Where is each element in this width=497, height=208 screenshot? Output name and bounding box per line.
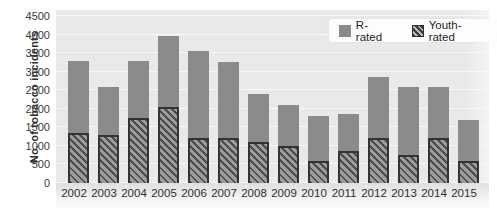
y-tick-label: 500 — [10, 158, 50, 170]
bar-group-2010 — [308, 116, 329, 183]
y-tick-label: 2500 — [10, 84, 50, 96]
bar-segment-youth-rated — [308, 161, 329, 183]
solid-swatch-icon — [339, 25, 351, 37]
bar-segment-youth-rated — [188, 138, 209, 183]
y-tick-label: 2000 — [10, 103, 50, 115]
bar-segment-r-rated — [98, 87, 119, 135]
bar-segment-r-rated — [368, 77, 389, 138]
bar-segment-youth-rated — [368, 138, 389, 183]
bar-segment-youth-rated — [128, 118, 149, 183]
bar-segment-youth-rated — [248, 142, 269, 183]
bar-segment-youth-rated — [428, 138, 449, 183]
gridline — [56, 52, 489, 53]
legend-item-youth-rated: Youth-rated — [412, 19, 487, 43]
y-tick-label: 4500 — [10, 10, 50, 22]
bar-group-2009 — [278, 105, 299, 183]
gridline — [56, 15, 489, 16]
bar-segment-r-rated — [128, 61, 149, 119]
bar-segment-youth-rated — [338, 151, 359, 183]
bar-segment-youth-rated — [98, 135, 119, 183]
y-tick-label: 1500 — [10, 121, 50, 133]
bar-segment-youth-rated — [158, 107, 179, 183]
bar-group-2013 — [398, 87, 419, 183]
y-tick-label: 1000 — [10, 140, 50, 152]
bar-group-2007 — [218, 62, 239, 183]
gridline — [56, 145, 489, 146]
bar-group-2008 — [248, 94, 269, 183]
bar-segment-youth-rated — [218, 138, 239, 183]
bar-segment-r-rated — [278, 105, 299, 146]
gridline — [56, 71, 489, 72]
tobacco-incidents-chart: No. of tobacco incidents 050010001500200… — [0, 0, 497, 208]
legend-item-r-rated: R-rated — [339, 19, 394, 43]
gridline — [56, 108, 489, 109]
bar-group-2002 — [68, 61, 89, 183]
bar-segment-r-rated — [218, 62, 239, 138]
bar-segment-r-rated — [338, 114, 359, 151]
y-tick-label: 3500 — [10, 47, 50, 59]
y-tick-label: 4000 — [10, 29, 50, 41]
bar-group-2014 — [428, 87, 449, 183]
bar-segment-r-rated — [248, 94, 269, 142]
hatched-swatch-icon — [412, 25, 424, 37]
bar-segment-r-rated — [158, 36, 179, 107]
bar-group-2012 — [368, 77, 389, 183]
y-tick-label: 3000 — [10, 66, 50, 78]
bar-group-2011 — [338, 114, 359, 183]
legend-label: R-rated — [356, 19, 394, 43]
bar-segment-youth-rated — [398, 155, 419, 183]
y-tick-label: 0 — [10, 177, 50, 189]
bar-group-2005 — [158, 36, 179, 183]
bar-group-2003 — [98, 87, 119, 183]
bar-segment-r-rated — [428, 87, 449, 139]
bar-group-2015 — [458, 120, 479, 183]
bar-segment-r-rated — [398, 87, 419, 156]
gridline — [56, 126, 489, 127]
bar-group-2006 — [188, 51, 209, 183]
bar-segment-r-rated — [188, 51, 209, 138]
bar-segment-r-rated — [68, 61, 89, 133]
bar-segment-r-rated — [308, 116, 329, 161]
gridline — [56, 163, 489, 164]
x-tick-label: 2015 — [444, 187, 484, 199]
gridline — [56, 89, 489, 90]
bar-segment-youth-rated — [278, 146, 299, 183]
legend: R-ratedYouth-rated — [329, 19, 497, 42]
bar-segment-youth-rated — [458, 161, 479, 183]
legend-label: Youth-rated — [429, 19, 487, 43]
bar-segment-r-rated — [458, 120, 479, 161]
y-axis-title: No. of tobacco incidents — [28, 17, 40, 177]
bar-group-2004 — [128, 61, 149, 183]
bar-segment-youth-rated — [68, 133, 89, 183]
